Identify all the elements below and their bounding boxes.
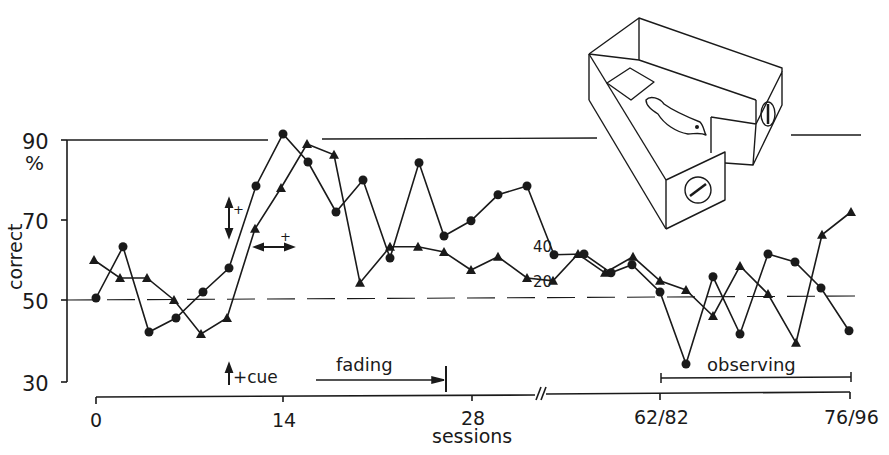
circle-marker (845, 326, 854, 335)
triangle-marker (302, 139, 312, 148)
y-axis (61, 140, 67, 382)
vertical-double-arrow-icon (226, 199, 232, 237)
triangle-marker (628, 252, 638, 261)
x-tick-76-96: 76/96 (824, 406, 879, 428)
circle-marker (359, 176, 368, 185)
triangle-marker (791, 338, 801, 347)
circle-marker (225, 264, 234, 273)
circle-marker (656, 288, 665, 297)
y-tick-50: 50 (22, 290, 49, 314)
x-tick-62-82: 62/82 (634, 406, 689, 428)
circle-marker (199, 288, 208, 297)
series-20-triangles (89, 139, 856, 347)
y-tick-70: 70 (22, 210, 49, 234)
y-axis-label: correct (4, 223, 26, 290)
circle-marker (682, 360, 691, 369)
series-label-20: 20 (533, 273, 552, 291)
series-label-40: 40 (533, 238, 552, 256)
cue-annotation: +cue (233, 367, 278, 387)
circle-marker (172, 314, 181, 323)
x-tick-14: 14 (272, 409, 296, 431)
triangle-marker (846, 207, 856, 216)
triangle-marker (466, 265, 476, 274)
chart: 90 % 70 50 30 correct 0 14 28 62/82 76/9… (0, 0, 889, 455)
reference-line-50 (67, 296, 861, 300)
circle-marker (628, 260, 637, 269)
circle-marker (467, 216, 476, 225)
circle-marker (817, 284, 826, 293)
triangle-marker (276, 183, 286, 192)
triangle-marker (329, 150, 339, 159)
circle-marker (791, 258, 800, 267)
x-tick-0: 0 (90, 409, 102, 431)
y-unit-percent: % (25, 151, 44, 175)
plus-annotation-1: + (233, 202, 244, 217)
triangle-marker (493, 252, 503, 261)
x-axis (96, 392, 850, 404)
circle-marker (92, 294, 101, 303)
circle-marker (145, 328, 154, 337)
x-axis-label: sessions (432, 425, 512, 447)
reference-line-90 (67, 135, 861, 140)
circle-marker (332, 208, 341, 217)
circle-marker (279, 130, 288, 139)
plus-annotation-2: + (280, 229, 291, 244)
circle-marker (440, 232, 449, 241)
circle-marker (252, 182, 261, 191)
cue-arrow-icon (226, 364, 232, 385)
pigeon-chamber-illustration (589, 18, 782, 229)
triangle-marker (250, 224, 260, 233)
series-40-circles (92, 130, 854, 369)
horizontal-double-arrow-icon (255, 244, 293, 250)
circle-marker (386, 254, 395, 263)
circle-marker (523, 182, 532, 191)
triangle-marker (522, 273, 532, 282)
circle-marker (494, 190, 503, 199)
circle-marker (304, 158, 313, 167)
circle-marker (764, 250, 773, 259)
circle-marker (709, 272, 718, 281)
axis-break-icon (536, 387, 546, 400)
triangle-marker (222, 313, 232, 322)
circle-marker (119, 242, 128, 251)
fading-annotation: fading (336, 354, 393, 375)
observing-annotation: observing (707, 354, 796, 375)
circle-marker (736, 330, 745, 339)
series-line (94, 144, 851, 343)
circle-marker (415, 158, 424, 167)
y-tick-30: 30 (22, 372, 49, 396)
triangle-marker (89, 255, 99, 264)
triangle-marker (735, 261, 745, 270)
